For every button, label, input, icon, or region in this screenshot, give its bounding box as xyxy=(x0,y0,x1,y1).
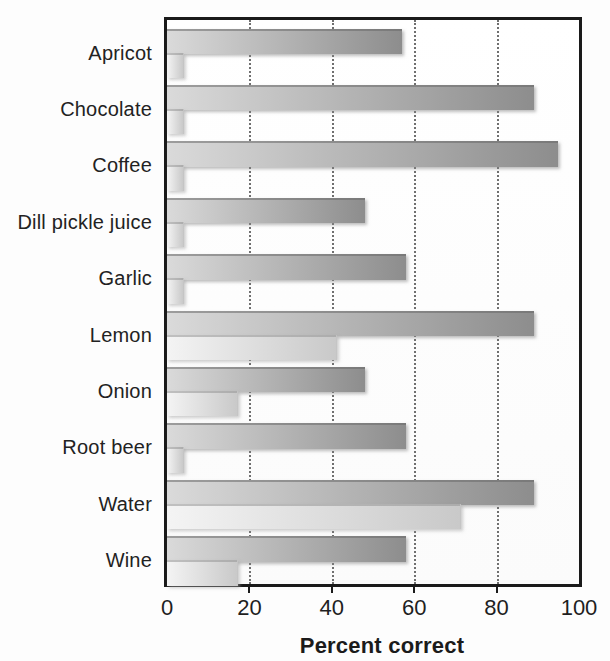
dark-bar xyxy=(167,311,534,337)
light-bar xyxy=(167,391,238,417)
x-axis-tick-40 xyxy=(331,586,333,593)
bar-group-apricot xyxy=(167,20,579,76)
x-tick-label-100: 100 xyxy=(561,595,598,621)
dark-bar xyxy=(167,536,406,562)
flavor-identification-bar-chart: ApricotChocolateCoffeeDill pickle juiceG… xyxy=(0,0,610,661)
light-bar xyxy=(167,278,184,304)
x-axis-tick-20 xyxy=(248,586,250,593)
bar-group-wine xyxy=(167,528,579,584)
x-axis-tick-60 xyxy=(413,586,415,593)
light-bar xyxy=(167,165,184,191)
dark-bar xyxy=(167,29,402,55)
plot-area xyxy=(164,17,582,587)
dark-bar xyxy=(167,423,406,449)
x-axis-title: Percent correct xyxy=(172,633,592,659)
x-tick-label-80: 80 xyxy=(484,595,508,621)
light-bar xyxy=(167,53,184,79)
x-tick-label-20: 20 xyxy=(237,595,261,621)
x-tick-label-60: 60 xyxy=(402,595,426,621)
dark-bar xyxy=(167,141,558,167)
light-bar xyxy=(167,560,238,586)
dark-bar xyxy=(167,198,365,224)
light-bar xyxy=(167,504,461,530)
bar-group-lemon xyxy=(167,302,579,358)
dark-bar xyxy=(167,367,365,393)
bar-group-garlic xyxy=(167,246,579,302)
bar-group-coffee xyxy=(167,133,579,189)
x-tick-label-40: 40 xyxy=(320,595,344,621)
bar-group-root-beer xyxy=(167,415,579,471)
dark-bar xyxy=(167,480,534,506)
x-tick-label-0: 0 xyxy=(161,595,173,621)
light-bar xyxy=(167,109,184,135)
bar-group-onion xyxy=(167,358,579,414)
bar-group-chocolate xyxy=(167,76,579,132)
light-bar xyxy=(167,335,337,361)
bar-group-dill-pickle-juice xyxy=(167,189,579,245)
dark-bar xyxy=(167,85,534,111)
light-bar xyxy=(167,222,184,248)
dark-bar xyxy=(167,254,406,280)
bar-group-water xyxy=(167,471,579,527)
light-bar xyxy=(167,447,184,473)
x-axis-tick-80 xyxy=(496,586,498,593)
